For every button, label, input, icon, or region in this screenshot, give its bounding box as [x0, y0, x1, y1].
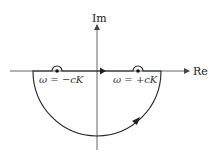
- imag-axis-label: Im: [92, 12, 107, 25]
- real-axis-label: Re: [193, 65, 208, 78]
- pole-left-dot: [55, 69, 59, 73]
- left-pole-label: ω = −cK: [39, 74, 84, 85]
- pole-right-dot: [136, 69, 140, 73]
- direction-arrow-axis-icon: [100, 68, 106, 75]
- right-pole-label: ω = +cK: [113, 74, 158, 85]
- direction-arrow-arc-icon: [132, 117, 140, 125]
- nyquist-contour-diagram: Im Re ω = −cK ω = +cK: [0, 0, 220, 153]
